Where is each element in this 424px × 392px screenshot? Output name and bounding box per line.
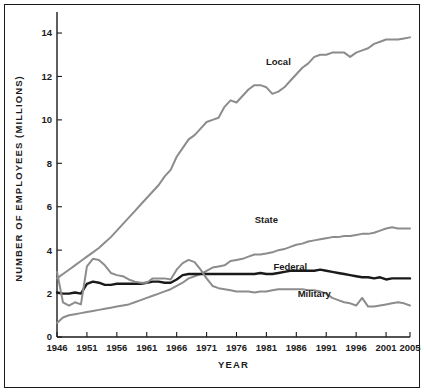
x-tick-label: 1986 xyxy=(286,342,307,353)
x-tick-label: 1951 xyxy=(76,342,98,353)
x-axis-title: YEAR xyxy=(218,359,249,370)
series-label-state: State xyxy=(255,214,278,225)
y-tick-label: 10 xyxy=(41,114,52,125)
x-tick-label: 2001 xyxy=(375,342,397,353)
x-tick-label: 1966 xyxy=(166,342,187,353)
y-tick-label: 0 xyxy=(47,331,52,342)
y-tick-label: 14 xyxy=(41,27,52,38)
line-chart: 0246810121419461951195619611966197119761… xyxy=(0,0,424,392)
x-tick-label: 1971 xyxy=(196,342,218,353)
chart-figure: 0246810121419461951195619611966197119761… xyxy=(0,0,424,392)
x-tick-label: 1961 xyxy=(136,342,158,353)
x-tick-label: 1981 xyxy=(256,342,278,353)
x-tick-label: 1996 xyxy=(346,342,367,353)
y-tick-label: 2 xyxy=(47,288,52,299)
y-axis-title: NUMBER OF EMPLOYEES (MILLIONS) xyxy=(13,75,24,282)
y-tick-label: 6 xyxy=(47,201,52,212)
series-line-military xyxy=(57,259,410,307)
series-lines xyxy=(57,37,410,323)
series-label-federal: Federal xyxy=(273,261,307,272)
x-tick-label: 1991 xyxy=(316,342,338,353)
series-line-local xyxy=(57,37,410,278)
x-tick-label: 1946 xyxy=(46,342,67,353)
y-tick-label: 8 xyxy=(47,158,52,169)
x-tick-label: 1976 xyxy=(226,342,247,353)
series-label-local: Local xyxy=(266,56,291,67)
series-labels: LocalStateFederalMilitary xyxy=(255,56,332,299)
x-tick-label: 2005 xyxy=(399,342,421,353)
y-tick-label: 12 xyxy=(41,71,52,82)
y-tick-label: 4 xyxy=(47,245,53,256)
series-label-military: Military xyxy=(298,288,332,299)
x-tick-label: 1956 xyxy=(106,342,127,353)
